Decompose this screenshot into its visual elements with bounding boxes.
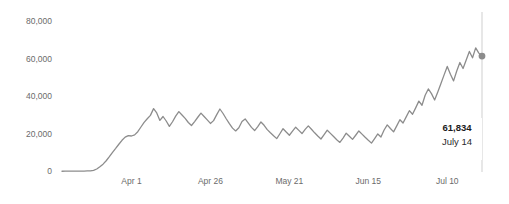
x-axis-tick-labels: Apr 1Apr 26May 21Jun 15Jul 10: [121, 176, 459, 186]
line-chart-container: 020,00040,00060,00080,000 Apr 1Apr 26May…: [0, 0, 509, 204]
x-tick-label: Jul 10: [436, 176, 459, 186]
x-tick-label: Apr 26: [198, 176, 223, 186]
x-tick-label: Apr 1: [121, 176, 142, 186]
y-tick-label: 20,000: [26, 129, 52, 139]
data-series-line: [62, 48, 482, 171]
y-tick-label: 40,000: [26, 91, 52, 101]
y-tick-label: 0: [47, 166, 52, 176]
y-axis-tick-labels: 020,00040,00060,00080,000: [26, 16, 52, 176]
value-tooltip: 61,834 July 14: [432, 118, 482, 160]
y-tick-label: 60,000: [26, 54, 52, 64]
x-tick-label: May 21: [275, 176, 303, 186]
x-tick-label: Jun 15: [356, 176, 382, 186]
endpoint-marker[interactable]: [479, 53, 486, 60]
chart-canvas: 020,00040,00060,00080,000 Apr 1Apr 26May…: [0, 0, 509, 204]
tooltip-value-label: 61,834: [432, 121, 482, 135]
y-tick-label: 80,000: [26, 16, 52, 26]
tooltip-date-label: July 14: [432, 135, 482, 149]
